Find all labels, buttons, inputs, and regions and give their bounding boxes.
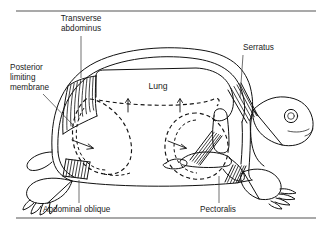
- mouth-line: [288, 129, 309, 132]
- eye-outer-circle: [284, 109, 297, 122]
- pectoral-inward-arrow: [168, 141, 187, 149]
- inspiratory-arrow-left: [126, 99, 131, 112]
- hindlimb-upper-outline: [27, 178, 72, 203]
- label-lung: Lung: [148, 81, 167, 91]
- eye-pupil-circle: [288, 113, 295, 120]
- label-transverse-abdominus-line1: Transverse: [61, 14, 102, 23]
- forelimb-claws: [269, 189, 296, 209]
- label-abdominal-oblique: Abdominal oblique: [43, 205, 111, 214]
- posterior-inward-arrow: [72, 140, 94, 149]
- label-transverse-abdominus-line2: abdominus: [61, 24, 101, 33]
- procoracoid-bone: [163, 159, 187, 169]
- turtle-anatomy-diagram: Transverse abdominus Posterior limiting …: [0, 0, 332, 234]
- pectoral-pocket-dashed-inner: [174, 120, 197, 173]
- figure-canvas: Transverse abdominus Posterior limiting …: [0, 0, 332, 234]
- label-posterior-limiting-line3: membrane: [10, 83, 50, 92]
- tail-outline: [27, 152, 52, 171]
- posterior-membrane-hatching: [67, 77, 94, 130]
- lung-floor-dashed: [99, 98, 219, 106]
- forelimb-lower-outline: [241, 172, 259, 199]
- label-serratus: Serratus: [243, 43, 274, 52]
- hindlimb-lower-outline: [48, 181, 72, 203]
- leader-posterior-limiting-membrane: [43, 94, 74, 126]
- label-posterior-limiting-line2: limiting: [10, 73, 36, 82]
- pectoralis-hatching: [192, 132, 220, 164]
- label-pectoralis: Pectoralis: [200, 205, 236, 214]
- lung-cavity-outline: [96, 68, 233, 121]
- label-posterior-limiting-line1: Posterior: [10, 63, 43, 72]
- head-lower-outline: [253, 110, 282, 145]
- shell-anterior-margin-inner: [241, 122, 242, 164]
- abdominal-oblique-hatching: [66, 159, 87, 178]
- posterior-viscera-pocket-dashed: [73, 99, 132, 174]
- scapula-bone: [213, 109, 229, 153]
